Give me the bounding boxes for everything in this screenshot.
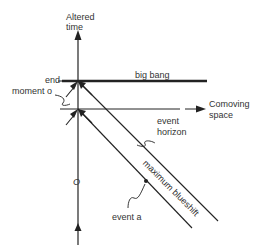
event-a-dot (144, 179, 148, 183)
time-label: time (66, 22, 83, 32)
comoving-label: Comoving (209, 99, 250, 109)
horizon-label: horizon (157, 127, 187, 137)
event-a-label: event a (112, 212, 142, 222)
maximum-blueshift-line (78, 81, 218, 221)
o-marker-label: O (73, 177, 80, 187)
big-bang-label: big bang (135, 70, 170, 80)
moment-o-leader (55, 95, 70, 105)
time-axis (75, 30, 82, 245)
diagram-canvas (0, 0, 259, 245)
moment-o-label: moment o (12, 86, 52, 96)
arrows-to-moment-o (66, 109, 92, 125)
event-horizon-leader (137, 141, 155, 147)
event-a-leader (128, 184, 145, 208)
event-label: event (157, 116, 179, 126)
end-label: end (45, 75, 60, 85)
altered-label: Altered (66, 12, 95, 22)
arrows-to-end (66, 81, 92, 97)
space-label: space (209, 110, 233, 120)
worldline-arrow-icon (75, 223, 82, 231)
space-axis-arrow-icon (196, 106, 206, 113)
